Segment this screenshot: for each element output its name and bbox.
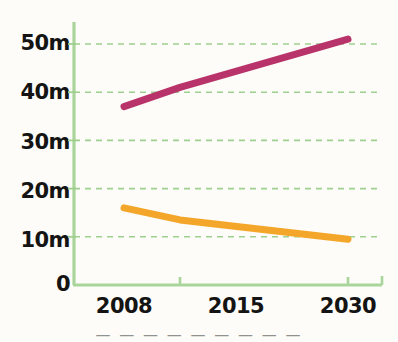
cut-off-caption: — — — — — — — — —: [0, 330, 398, 342]
data-series-layer: [124, 39, 348, 239]
plot-area: [0, 0, 398, 342]
x-tick-label-2015: 2015: [208, 296, 264, 317]
x-tick-label-2030: 2030: [320, 296, 376, 317]
line-series-orange: [124, 208, 348, 239]
line-series-magenta: [124, 39, 348, 106]
axis-lines: [68, 22, 382, 285]
line-chart: 50m 40m 30m 20m 10m 0 2008 2015 2030 — —…: [0, 0, 398, 342]
x-tick-label-2008: 2008: [96, 296, 152, 317]
